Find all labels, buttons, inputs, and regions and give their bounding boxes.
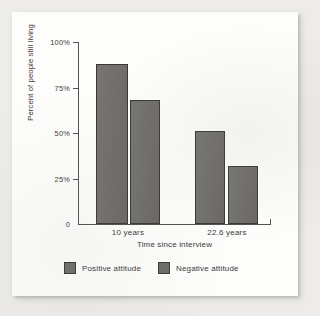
legend-item-negative-attitude: Negative attitude	[158, 262, 239, 274]
x-tick-label-10-years: 10 years	[88, 228, 168, 237]
legend-swatch-icon-negative	[158, 262, 170, 274]
y-axis-line	[78, 42, 79, 225]
chart-panel: 100% 75% 50% 25% 0 Percent of people sti…	[12, 12, 298, 296]
plot-area: 100% 75% 50% 25% 0 Percent of people sti…	[12, 12, 298, 296]
y-axis-title: Percent of people still living	[26, 3, 35, 143]
y-tick-mark-25	[73, 179, 78, 180]
y-tick-label-50: 50%	[30, 129, 70, 138]
x-axis-line	[78, 224, 271, 225]
y-tick-label-25: 25%	[30, 175, 70, 184]
y-tick-label-0: 0	[30, 220, 70, 229]
y-tick-mark-75	[73, 88, 78, 89]
bar-10y-negative	[130, 100, 160, 224]
y-tick-label-100: 100%	[30, 38, 70, 47]
legend-label-positive: Positive attitude	[82, 264, 141, 273]
bar-226y-positive	[195, 131, 225, 224]
y-tick-label-75: 75%	[30, 84, 70, 93]
x-axis-end-tick	[270, 219, 271, 224]
bar-10y-positive	[96, 64, 128, 224]
x-axis-start-tick	[78, 219, 79, 224]
legend-swatch-icon-positive	[64, 262, 76, 274]
y-tick-mark-100	[73, 42, 78, 43]
legend-label-negative: Negative attitude	[176, 264, 239, 273]
bar-226y-negative	[228, 166, 258, 224]
chart-legend: Positive attitude Negative attitude	[52, 262, 272, 280]
legend-item-positive-attitude: Positive attitude	[64, 262, 141, 274]
x-axis-title: Time since interview	[78, 240, 271, 249]
figure-root: 100% 75% 50% 25% 0 Percent of people sti…	[0, 0, 320, 316]
y-tick-mark-50	[73, 133, 78, 134]
x-tick-label-226-years: 22.6 years	[187, 228, 267, 237]
